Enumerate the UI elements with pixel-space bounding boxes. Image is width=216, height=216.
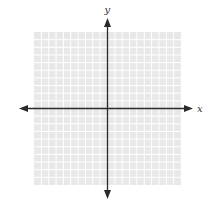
- arrow-up-icon: [104, 18, 111, 27]
- arrow-left-icon: [19, 105, 28, 112]
- x-axis-label: x: [197, 103, 203, 114]
- coordinate-plane: x y: [0, 0, 216, 216]
- y-axis-label: y: [104, 4, 111, 15]
- arrow-right-icon: [184, 105, 193, 112]
- arrow-down-icon: [104, 190, 111, 199]
